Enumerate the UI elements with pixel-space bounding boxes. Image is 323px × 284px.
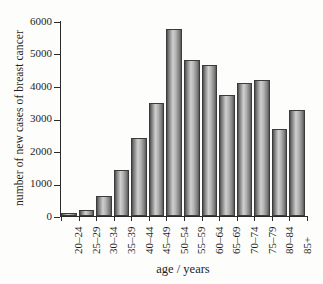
y-tick-mark — [54, 217, 60, 218]
bar — [61, 213, 77, 216]
y-tick-label: 0 — [16, 211, 52, 222]
x-tick-mark — [307, 216, 308, 221]
y-tick-label: 4000 — [16, 81, 52, 92]
bar — [149, 103, 165, 216]
x-tick-label: 85+ — [302, 237, 313, 254]
x-tick-label: 40–44 — [144, 227, 155, 255]
x-tick-label: 60–64 — [214, 227, 225, 255]
bar — [79, 210, 95, 217]
x-tick-mark — [202, 216, 203, 221]
y-tick-label: 5000 — [16, 48, 52, 59]
x-tick-mark — [61, 216, 62, 221]
bar — [237, 83, 253, 216]
chart-figure: number of new cases of breast cancer 010… — [0, 0, 323, 284]
x-tick-label: 80–84 — [284, 227, 295, 255]
y-tick-label: 3000 — [16, 113, 52, 124]
x-tick-mark — [237, 216, 238, 221]
x-tick-label: 25–29 — [91, 227, 102, 255]
x-tick-mark — [114, 216, 115, 221]
x-tick-label: 55–59 — [196, 227, 207, 255]
x-tick-mark — [254, 216, 255, 221]
bar — [289, 110, 305, 216]
bar — [254, 80, 270, 216]
x-tick-mark — [219, 216, 220, 221]
x-axis-title: age / years — [60, 262, 306, 277]
x-tick-mark — [184, 216, 185, 221]
plot-area — [60, 21, 306, 216]
x-tick-mark — [79, 216, 80, 221]
bar — [114, 170, 130, 216]
x-tick-label: 65–69 — [231, 227, 242, 255]
x-tick-label: 35–39 — [126, 227, 137, 255]
x-tick-mark — [289, 216, 290, 221]
x-tick-mark — [272, 216, 273, 221]
bar — [96, 196, 112, 216]
x-tick-label: 20–24 — [73, 227, 84, 255]
x-tick-label: 45–49 — [161, 227, 172, 255]
x-tick-label: 70–74 — [249, 227, 260, 255]
x-tick-label: 30–34 — [108, 227, 119, 255]
bar — [166, 29, 182, 216]
x-tick-label: 50–54 — [179, 227, 190, 255]
x-tick-mark — [149, 216, 150, 221]
y-tick-label: 2000 — [16, 146, 52, 157]
x-tick-label: 75–79 — [267, 227, 278, 255]
bar — [272, 129, 288, 216]
x-tick-mark — [166, 216, 167, 221]
bar — [131, 138, 147, 216]
bar — [219, 95, 235, 216]
bar — [202, 65, 218, 216]
bar — [184, 60, 200, 216]
x-tick-mark — [96, 216, 97, 221]
y-tick-label: 6000 — [16, 16, 52, 27]
x-tick-mark — [131, 216, 132, 221]
y-tick-label: 1000 — [16, 178, 52, 189]
